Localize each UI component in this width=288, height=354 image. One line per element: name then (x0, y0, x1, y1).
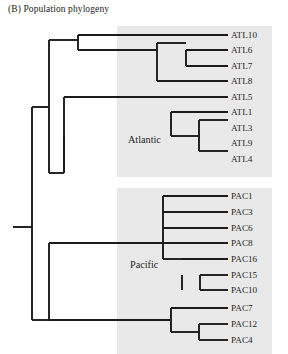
tip-label-pac7: PAC7 (231, 303, 253, 313)
tip-label-pac10: PAC10 (231, 285, 258, 295)
tip-label-pac6: PAC6 (231, 223, 253, 233)
tip-label-atl3: ATL3 (231, 123, 253, 133)
group-label-atlantic: Atlantic (128, 134, 161, 145)
tip-label-pac12: PAC12 (231, 319, 258, 329)
tip-label-atl10: ATL10 (231, 30, 257, 40)
tip-label-pac1: PAC1 (231, 191, 253, 201)
tip-label-atl5: ATL5 (231, 92, 253, 102)
tip-label-pac16: PAC16 (231, 254, 258, 264)
tip-label-atl9: ATL9 (231, 138, 253, 148)
tip-label-pac15: PAC15 (231, 270, 258, 280)
tip-label-atl7: ATL7 (231, 61, 253, 71)
figure-population-phylogeny: (B) Population phylogeny ATL10ATL6ATL7AT… (0, 0, 288, 354)
tip-label-atl1: ATL1 (231, 107, 253, 117)
tip-label-pac4: PAC4 (231, 335, 253, 345)
tip-label-atl8: ATL8 (231, 76, 253, 86)
group-label-pacific: Pacific (130, 259, 159, 270)
tip-label-atl6: ATL6 (231, 45, 253, 55)
tip-label-pac8: PAC8 (231, 238, 253, 248)
tip-label-pac3: PAC3 (231, 207, 253, 217)
tip-label-atl4: ATL4 (231, 154, 253, 164)
phylogenetic-tree: ATL10ATL6ATL7ATL8ATL5ATL1ATL3ATL9ATL4PAC… (0, 0, 288, 354)
